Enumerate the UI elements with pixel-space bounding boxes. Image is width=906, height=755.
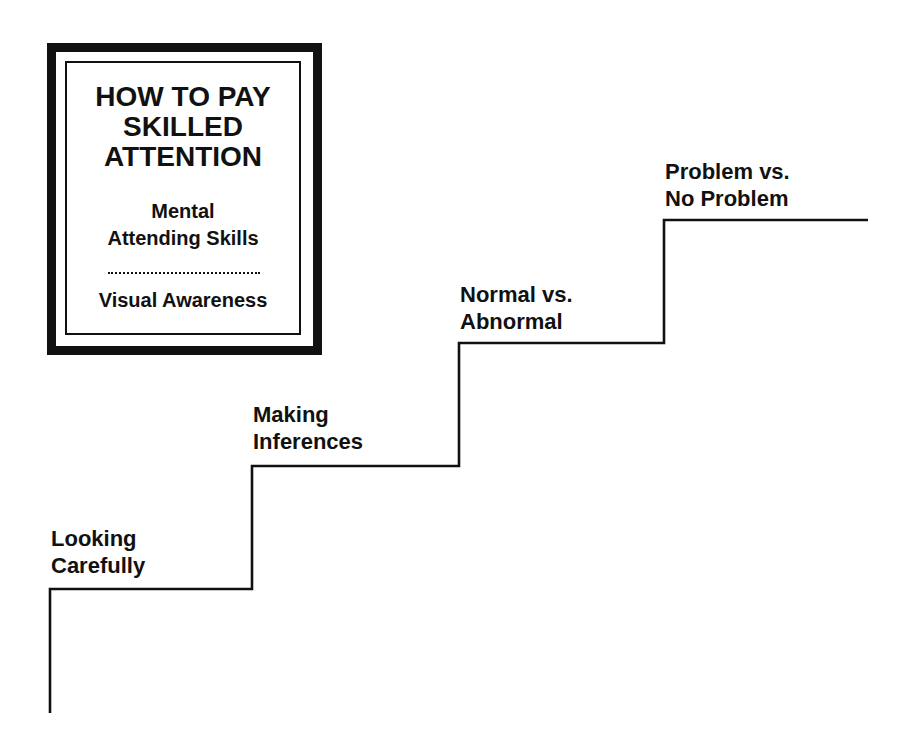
step-4-line-2: No Problem <box>665 185 790 212</box>
step-label-2: Making Inferences <box>253 401 363 455</box>
staircase-path <box>50 220 868 713</box>
step-label-4: Problem vs. No Problem <box>665 158 790 212</box>
step-2-line-1: Making <box>253 401 363 428</box>
staircase-line <box>0 0 906 755</box>
step-1-line-2: Carefully <box>51 552 145 579</box>
step-label-3: Normal vs. Abnormal <box>460 281 573 335</box>
step-2-line-2: Inferences <box>253 428 363 455</box>
step-label-1: Looking Carefully <box>51 525 145 579</box>
step-1-line-1: Looking <box>51 525 145 552</box>
step-4-line-1: Problem vs. <box>665 158 790 185</box>
step-3-line-1: Normal vs. <box>460 281 573 308</box>
step-3-line-2: Abnormal <box>460 308 573 335</box>
